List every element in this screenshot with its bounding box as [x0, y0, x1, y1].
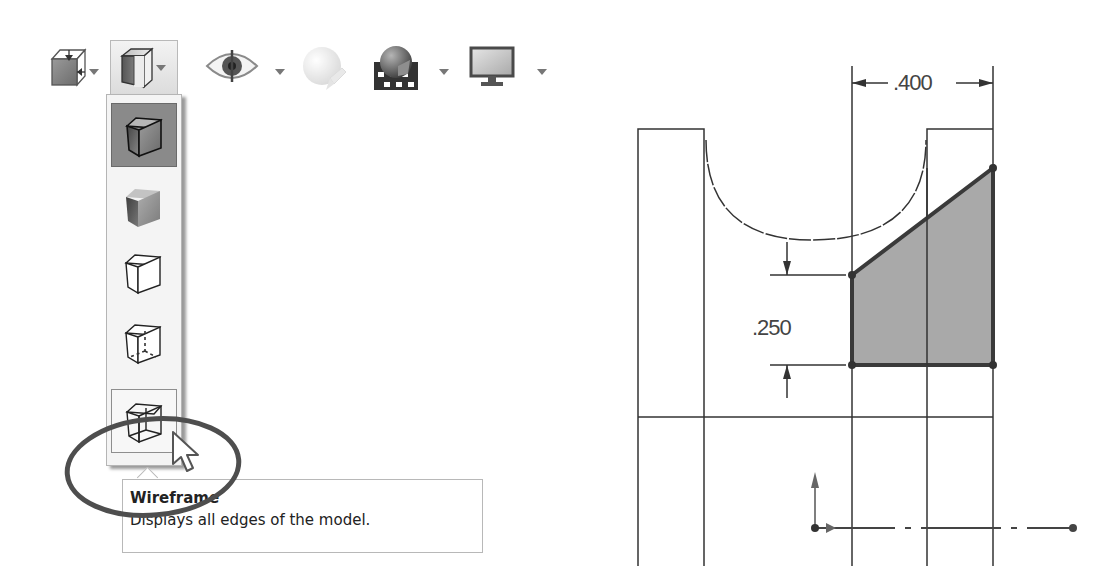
sketch-drawing	[620, 0, 1094, 585]
menu-item-shaded[interactable]	[111, 175, 177, 239]
highlight-ellipse	[60, 410, 250, 525]
view-settings-dropdown-arrow[interactable]	[537, 69, 547, 75]
view-orientation-dropdown-arrow[interactable]	[89, 69, 99, 75]
view-settings-button[interactable]	[468, 44, 508, 84]
apply-scene-dropdown-arrow[interactable]	[439, 69, 449, 75]
menu-item-hidden-lines-removed[interactable]	[111, 241, 177, 305]
menu-item-shaded-with-edges[interactable]	[111, 103, 177, 167]
menu-item-hidden-lines-visible[interactable]	[111, 311, 177, 375]
view-orientation-button[interactable]	[48, 45, 88, 85]
shaded-with-edges-icon	[124, 114, 166, 158]
scene-sphere-icon	[370, 42, 422, 92]
cube-orientation-icon	[48, 45, 88, 87]
monitor-icon	[468, 44, 516, 88]
edit-appearance-button[interactable]	[300, 44, 340, 84]
hidden-lines-removed-icon	[123, 251, 165, 295]
appearance-sphere-icon	[300, 44, 348, 92]
dimension-vertical[interactable]: .250	[752, 315, 791, 341]
display-style-button[interactable]	[110, 40, 178, 95]
shaded-cube-icon	[123, 185, 165, 229]
display-style-dropdown-arrow[interactable]	[156, 65, 166, 71]
apply-scene-button[interactable]	[370, 42, 410, 82]
eye-icon	[205, 48, 259, 84]
shaded-cube-icon	[117, 46, 157, 90]
hide-show-items-button[interactable]	[205, 48, 245, 88]
hide-show-dropdown-arrow[interactable]	[275, 69, 285, 75]
hidden-lines-visible-icon	[123, 321, 165, 365]
dimension-horizontal[interactable]: .400	[893, 70, 932, 96]
